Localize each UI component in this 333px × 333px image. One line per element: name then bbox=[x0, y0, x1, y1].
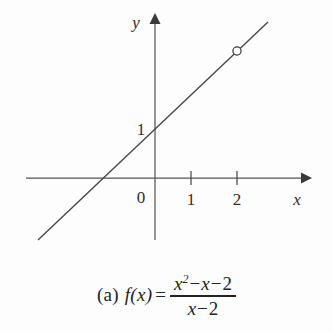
den-op1: − bbox=[196, 298, 209, 319]
y-intercept-label-1: 1 bbox=[137, 120, 146, 139]
num-term1-var: x bbox=[174, 273, 182, 294]
function-name-label: f(x) bbox=[125, 285, 153, 304]
fraction: x2−x−2 x−2 bbox=[170, 273, 236, 319]
y-axis-label: y bbox=[130, 13, 140, 32]
open-circle-hole-icon bbox=[233, 47, 241, 55]
origin-label: 0 bbox=[137, 188, 146, 207]
figure-caption: (a) f(x) = x2−x−2 x−2 bbox=[0, 272, 333, 330]
fraction-denominator: x−2 bbox=[184, 297, 223, 319]
den-term1: x bbox=[188, 298, 196, 319]
caption-inner: (a) f(x) = x2−x−2 x−2 bbox=[97, 272, 236, 318]
figure-page: y x 0 1 1 2 (a) f(x) = x2−x−2 x−2 bbox=[0, 0, 333, 333]
caption-tag: (a) bbox=[97, 285, 119, 304]
equals-sign: = bbox=[155, 285, 166, 304]
num-term3: 2 bbox=[222, 273, 232, 294]
num-op2: − bbox=[210, 273, 223, 294]
num-op1: − bbox=[189, 273, 202, 294]
x-tick-label-1: 1 bbox=[187, 190, 196, 209]
fraction-numerator: x2−x−2 bbox=[170, 273, 236, 295]
num-term2: x bbox=[201, 273, 209, 294]
x-axis-label: x bbox=[292, 190, 301, 209]
num-term1-exponent: 2 bbox=[183, 272, 189, 286]
x-tick-label-2: 2 bbox=[233, 190, 242, 209]
den-term2: 2 bbox=[209, 298, 219, 319]
